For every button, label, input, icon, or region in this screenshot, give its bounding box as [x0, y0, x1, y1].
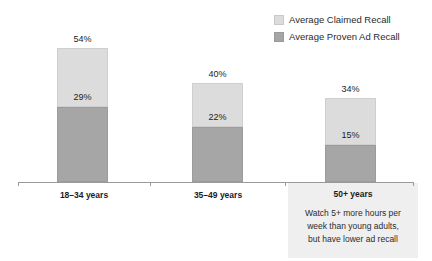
bar-18-34-years: 54% 29%: [57, 48, 108, 182]
x-axis-line: [18, 182, 414, 183]
callout-line-3: but have lower ad recall: [292, 233, 414, 246]
bar-total-label-18-34: 54%: [57, 34, 108, 44]
callout-line-1: Watch 5+ more hours per: [292, 207, 414, 220]
bar-total-label-50-plus: 34%: [325, 84, 376, 94]
bar-lower-label-18-34: 29%: [57, 92, 108, 102]
annotation-callout-50plus: 50+ years Watch 5+ more hours per week t…: [288, 183, 418, 258]
x-axis-tick-start: [18, 182, 19, 186]
callout-line-2: week than young adults,: [292, 220, 414, 233]
bar-35-49-years: 40% 22%: [192, 83, 243, 182]
bar-lower-label-50-plus: 15%: [325, 130, 376, 140]
plot-area: 50+ years Watch 5+ more hours per week t…: [0, 0, 432, 261]
stacked-bar-chart: Average Claimed Recall Average Proven Ad…: [0, 0, 432, 261]
category-label-35-49: 35–49 years: [151, 190, 285, 200]
x-axis-tick-end: [413, 182, 414, 186]
callout-body: Watch 5+ more hours per week than young …: [292, 207, 414, 246]
bar-total-label-35-49: 40%: [192, 69, 243, 79]
x-axis-tick-2: [285, 182, 286, 186]
callout-title: 50+ years: [288, 189, 418, 199]
x-axis-tick-1: [150, 182, 151, 186]
bar-segment-proven-50-plus: [325, 145, 376, 182]
bar-segment-proven-35-49: [192, 127, 243, 182]
category-label-18-34: 18–34 years: [18, 190, 150, 200]
bar-segment-proven-18-34: [57, 107, 108, 182]
bar-50-plus-years: 34% 15%: [325, 98, 376, 182]
bar-lower-label-35-49: 22%: [192, 112, 243, 122]
